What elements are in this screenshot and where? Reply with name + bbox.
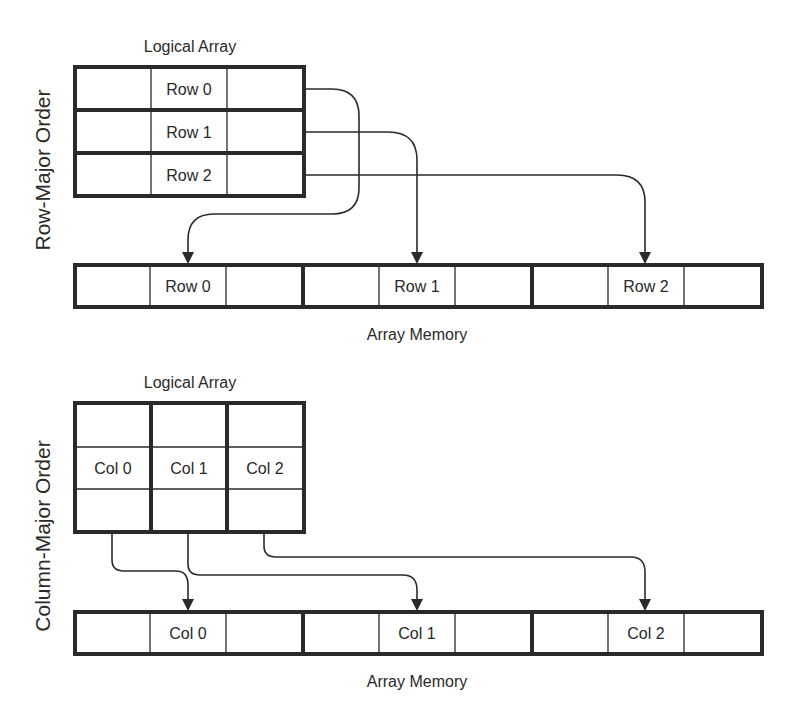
arrow-head-icon: [411, 252, 423, 264]
memory-col-2: Col 2: [627, 625, 664, 642]
column-major-side-label: Column-Major Order: [31, 440, 54, 631]
arrow-head-icon: [182, 252, 194, 264]
column-major-logical-array: Col 0 Col 1 Col 2: [75, 403, 304, 532]
column-major-section: Column-Major Order Logical Array Col 0 C…: [31, 374, 762, 690]
row-major-memory-label: Array Memory: [367, 326, 467, 343]
column-major-logical-title: Logical Array: [144, 374, 237, 391]
logical-row-1: Row 1: [166, 124, 211, 141]
column-major-memory-strip: Col 0 Col 1 Col 2: [75, 612, 762, 654]
logical-col-1: Col 1: [170, 460, 207, 477]
column-major-arrows: [112, 533, 651, 611]
arrow-head-icon: [639, 252, 651, 264]
logical-col-2: Col 2: [246, 460, 283, 477]
row-major-memory-strip: Row 0 Row 1 Row 2: [75, 265, 762, 307]
arrow-head-icon: [411, 599, 423, 611]
arrow-head-icon: [182, 599, 194, 611]
arrow-head-icon: [639, 599, 651, 611]
row-major-side-label: Row-Major Order: [31, 89, 54, 250]
logical-row-2: Row 2: [166, 167, 211, 184]
logical-col-0: Col 0: [94, 460, 131, 477]
memory-row-1: Row 1: [394, 278, 439, 295]
row-major-section: Row-Major Order Logical Array Row 0 Row …: [31, 38, 762, 343]
memory-col-1: Col 1: [398, 625, 435, 642]
row-major-arrows: [182, 89, 651, 264]
memory-col-0: Col 0: [169, 625, 206, 642]
row-major-logical-title: Logical Array: [144, 38, 237, 55]
memory-row-2: Row 2: [623, 278, 668, 295]
memory-row-0: Row 0: [165, 278, 210, 295]
row-major-logical-array: Row 0 Row 1 Row 2: [75, 67, 304, 196]
array-layout-diagram: Row-Major Order Logical Array Row 0 Row …: [0, 0, 799, 708]
column-major-memory-label: Array Memory: [367, 673, 467, 690]
logical-row-0: Row 0: [166, 81, 211, 98]
